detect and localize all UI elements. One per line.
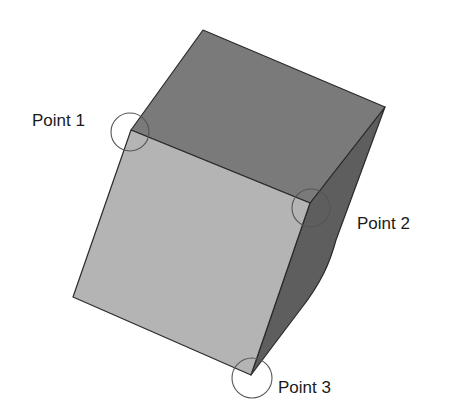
- point-2-label: Point 2: [357, 214, 410, 233]
- cube-figure: Point 1 Point 2 Point 3: [0, 0, 457, 418]
- point-3-label: Point 3: [278, 378, 331, 397]
- point-1-label: Point 1: [32, 111, 85, 130]
- cube-diagram: Point 1 Point 2 Point 3: [0, 0, 457, 418]
